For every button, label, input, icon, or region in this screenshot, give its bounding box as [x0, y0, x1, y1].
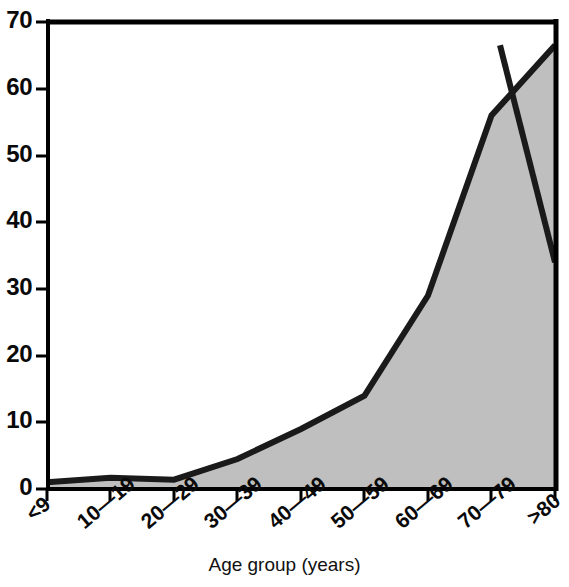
- y-tick-label-10: 10: [0, 408, 32, 432]
- y-tick-label-60: 60: [0, 75, 32, 99]
- y-tick-label-0: 0: [0, 475, 32, 499]
- y-tick-label-40: 40: [0, 208, 32, 232]
- x-axis-title: Age group (years): [0, 555, 569, 574]
- y-tick-label-20: 20: [0, 342, 32, 366]
- y-tick-label-70: 70: [0, 8, 32, 32]
- chart-figure: 70 60 50 40 30 20 10 0 <9 10—19 20—29 30…: [0, 0, 569, 587]
- area-fill-region: [47, 45, 555, 489]
- y-tick-label-50: 50: [0, 142, 32, 166]
- y-tick-label-30: 30: [0, 275, 32, 299]
